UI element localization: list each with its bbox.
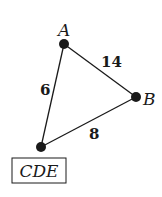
edge-a-b-weight: 14 <box>101 53 122 71</box>
edge-b-cde-weight: 8 <box>89 125 99 143</box>
node-b-label: B <box>142 89 156 109</box>
node-b <box>131 92 141 102</box>
node-cde-label: CDE <box>19 161 59 181</box>
node-a-label: A <box>56 20 70 40</box>
node-cde <box>36 142 46 152</box>
edge-a-cde-weight: 6 <box>40 81 50 99</box>
node-a <box>59 39 69 49</box>
graph-diagram: A B CDE 14 6 8 <box>0 0 162 197</box>
edge-a-b <box>64 44 136 97</box>
